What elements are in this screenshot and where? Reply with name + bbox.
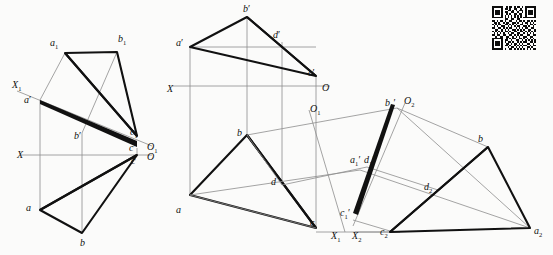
vertex-b-label: b	[237, 128, 242, 138]
drawing-canvas: a1b1X1a′b′c1c′O1XcOabb′a′d′c′XOO1bdacb1′…	[0, 0, 553, 255]
origin-o1-label: O1	[310, 104, 321, 117]
vertex-b-label: b	[80, 238, 85, 248]
mid-plan-edge-ac-thin	[190, 195, 316, 228]
vertex-b2-label: b	[478, 134, 483, 144]
left-plan-triangle	[40, 155, 137, 233]
vertex-d2-label: d2	[424, 182, 432, 195]
right-link-d	[282, 167, 367, 185]
vertex-a-label: a	[176, 205, 181, 215]
right-aux-b-link	[397, 108, 488, 147]
vertex-a1-prime-label: a1′	[350, 155, 361, 168]
vertex-b1-label: b1	[118, 34, 126, 47]
right-link-b	[247, 108, 397, 135]
vertex-a-prime-label: a′	[24, 95, 31, 105]
axis-x1-label: X1	[12, 80, 22, 93]
axis-x-label: X	[17, 150, 23, 160]
mid-plan-edge-bd-thin	[247, 135, 282, 185]
right-aux-triangle	[390, 147, 530, 232]
vertex-c-prime-label: c′	[308, 68, 315, 78]
vertex-d-prime-label: d′	[273, 30, 280, 40]
vertex-c1-label: c1	[130, 127, 138, 140]
origin-o-label: O	[322, 83, 329, 93]
vertex-a-label: a	[26, 203, 31, 213]
left-front-edge-band	[40, 100, 137, 147]
origin-o-label: O	[147, 152, 154, 162]
left-link-a1-aprime	[40, 53, 65, 100]
right-o2-ray	[353, 103, 405, 226]
vertex-b1-prime-label: b1′	[385, 98, 396, 111]
figure-right-geometry	[190, 103, 530, 232]
vertex-c-label: c	[131, 156, 136, 166]
axis-x2-label: X2	[352, 231, 362, 244]
vertex-c-label: c	[310, 218, 315, 228]
vertex-d-label: d	[271, 177, 276, 187]
vertex-d1-prime-label: d1′	[364, 155, 375, 168]
vertex-c-prime-label: c′	[129, 143, 136, 153]
vertex-a-prime-label: a′	[176, 38, 183, 48]
right-aux-edge-b-c2	[390, 147, 488, 232]
vertex-c2-label: c2	[380, 227, 388, 240]
left-plan-edge-ac	[40, 155, 137, 210]
vertex-a1-label: a1	[50, 38, 58, 51]
origin-o2-label: O2	[404, 96, 415, 109]
figure-middle-geometry	[172, 17, 345, 232]
axis-x-label: X	[167, 84, 173, 94]
mid-front-triangle	[190, 17, 316, 76]
vertex-b-prime-label: b′	[243, 4, 250, 14]
qr-code	[492, 6, 536, 50]
vertex-c1-prime-label: c1′	[340, 208, 350, 221]
vertex-a2-label: a2	[534, 226, 542, 239]
vertex-b-prime-label: b′	[74, 131, 81, 141]
axis-x1-label: X1	[331, 231, 341, 244]
